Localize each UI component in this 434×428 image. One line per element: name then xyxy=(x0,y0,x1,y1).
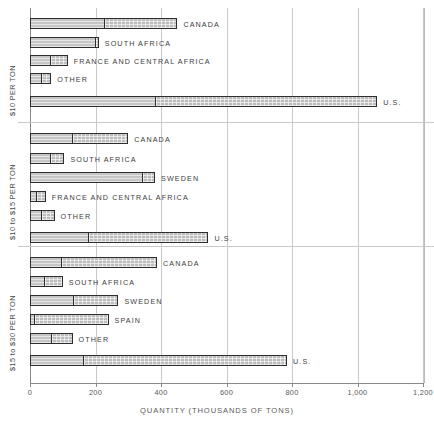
bar-row: OTHER xyxy=(30,210,423,221)
tick-mark xyxy=(96,383,97,387)
panel-label: $10 PER TON xyxy=(8,65,17,116)
bar xyxy=(30,55,68,66)
bar-label: OTHER xyxy=(61,211,92,220)
panel-3: $15 to $30 PER TONCANADASOUTH AFRICASWED… xyxy=(30,252,423,383)
bar xyxy=(30,257,157,268)
bar-segment-a xyxy=(31,173,142,182)
bar-label: SWEDEN xyxy=(161,173,199,182)
tick-mark xyxy=(30,383,31,387)
bar-segment-b xyxy=(104,19,177,28)
bar-segment-a xyxy=(31,258,61,267)
tick-mark xyxy=(423,383,424,387)
bar-row: SWEDEN xyxy=(30,295,423,306)
bar xyxy=(30,96,377,107)
bar-row: SOUTH AFRICA xyxy=(30,276,423,287)
bar-segment-b xyxy=(155,97,376,106)
bar xyxy=(30,191,46,202)
bar-label: CANADA xyxy=(134,134,171,143)
bar-row: U.S. xyxy=(30,96,423,107)
tick-mark xyxy=(227,383,228,387)
bar-segment-b xyxy=(83,356,286,365)
tick-label: 200 xyxy=(89,388,102,397)
bar-row: CANADA xyxy=(30,18,423,29)
bar-row: SOUTH AFRICA xyxy=(30,37,423,48)
bar-label: SOUTH AFRICA xyxy=(69,277,135,286)
gridline xyxy=(423,8,424,383)
bar-label: SPAIN xyxy=(115,315,142,324)
bar-segment-a xyxy=(31,154,50,163)
bar xyxy=(30,232,208,243)
bar-segment-b xyxy=(50,56,67,65)
bar-segment-b xyxy=(142,173,154,182)
bar-segment-a xyxy=(31,19,104,28)
panel-2: $10 to $15 PER TONCANADASOUTH AFRICASWED… xyxy=(30,128,423,252)
bar-segment-b xyxy=(51,334,71,343)
bar-segment-b xyxy=(41,74,50,83)
bar-segment-a xyxy=(31,277,44,286)
bar-segment-a xyxy=(31,97,155,106)
bar xyxy=(30,18,177,29)
bar-segment-b xyxy=(61,258,156,267)
tick-label: 400 xyxy=(154,388,167,397)
bar xyxy=(30,73,51,84)
bar-row: OTHER xyxy=(30,73,423,84)
x-axis-title: QUANTITY (THOUSANDS OF TONS) xyxy=(0,406,434,415)
bar-label: FRANCE AND CENTRAL AFRICA xyxy=(74,56,211,65)
bar-row: FRANCE AND CENTRAL AFRICA xyxy=(30,55,423,66)
bar-label: SOUTH AFRICA xyxy=(105,38,171,47)
bar xyxy=(30,295,118,306)
bar-segment-b xyxy=(41,211,54,220)
bar-label: SWEDEN xyxy=(124,296,162,305)
bar-label: U.S. xyxy=(214,233,232,242)
tick-label: 600 xyxy=(220,388,233,397)
bar-segment-b xyxy=(95,38,98,47)
bar-segment-a xyxy=(31,56,50,65)
bar xyxy=(30,172,155,183)
panel-label: $10 to $15 PER TON xyxy=(8,164,17,240)
bar-segment-a xyxy=(31,74,41,83)
bar-row: FRANCE AND CENTRAL AFRICA xyxy=(30,191,423,202)
bar-row: OTHER xyxy=(30,333,423,344)
bar-segment-a xyxy=(31,38,95,47)
bar xyxy=(30,133,128,144)
bar-segment-b xyxy=(73,296,118,305)
bar-segment-b xyxy=(34,315,108,324)
bar-chart: $10 PER TONCANADASOUTH AFRICAFRANCE AND … xyxy=(0,0,434,428)
bar-label: U.S. xyxy=(293,356,311,365)
bar-row: U.S. xyxy=(30,355,423,366)
bar xyxy=(30,314,109,325)
bar xyxy=(30,37,99,48)
bar-label: U.S. xyxy=(383,97,401,106)
panel-1: $10 PER TONCANADASOUTH AFRICAFRANCE AND … xyxy=(30,8,423,128)
bar-segment-a xyxy=(31,334,51,343)
bar-row: U.S. xyxy=(30,232,423,243)
bar-row: SOUTH AFRICA xyxy=(30,153,423,164)
bar-label: OTHER xyxy=(79,334,110,343)
bar-label: CANADA xyxy=(163,258,200,267)
tick-label: 1,200 xyxy=(413,388,433,397)
bar xyxy=(30,355,287,366)
bar-segment-b xyxy=(88,233,208,242)
tick-mark xyxy=(358,383,359,387)
bar xyxy=(30,276,63,287)
bar xyxy=(30,153,64,164)
tick-label: 1,000 xyxy=(348,388,368,397)
tick-label: 800 xyxy=(285,388,298,397)
bar-row: SPAIN xyxy=(30,314,423,325)
panel-label: $15 to $30 PER TON xyxy=(8,295,17,371)
bar-segment-a xyxy=(31,296,73,305)
bar-segment-b xyxy=(36,192,45,201)
bar-segment-a xyxy=(31,134,72,143)
tick-mark xyxy=(292,383,293,387)
bar-label: FRANCE AND CENTRAL AFRICA xyxy=(52,192,189,201)
bar-segment-b xyxy=(50,154,64,163)
bar-label: OTHER xyxy=(57,74,88,83)
tick-label: 0 xyxy=(28,388,32,397)
bar-row: CANADA xyxy=(30,257,423,268)
bar-segment-b xyxy=(44,277,62,286)
bar-segment-b xyxy=(72,134,127,143)
bar-label: SOUTH AFRICA xyxy=(70,154,136,163)
bar-segment-a xyxy=(31,233,88,242)
bar-segment-a xyxy=(31,211,41,220)
bar xyxy=(30,333,73,344)
